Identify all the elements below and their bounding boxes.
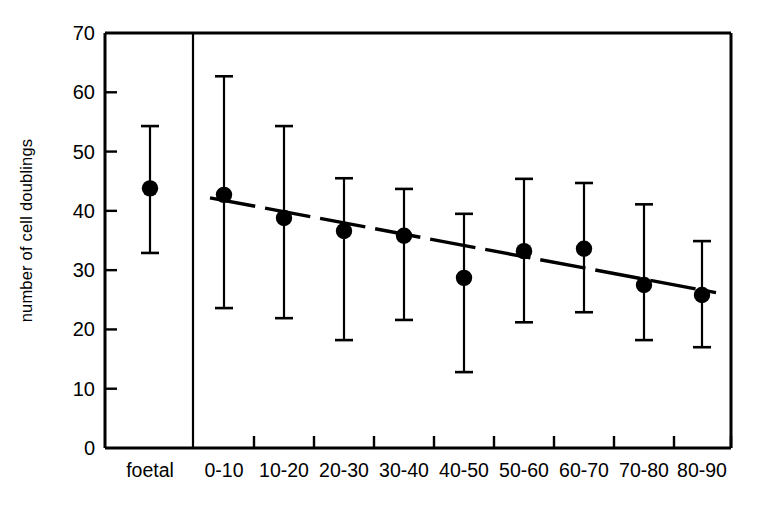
x-tick-label: 70-80 (619, 459, 669, 481)
data-point-marker (276, 210, 292, 226)
x-tick-label: 20-30 (319, 459, 369, 481)
x-tick-label: 30-40 (379, 459, 429, 481)
data-point-marker (456, 270, 472, 286)
y-tick-label: 40 (73, 200, 95, 222)
y-tick-label: 50 (73, 141, 95, 163)
data-point-marker (216, 187, 232, 203)
data-point-marker (576, 241, 592, 257)
x-tick-label: foetal (126, 459, 174, 481)
x-tick-label: 60-70 (559, 459, 609, 481)
y-tick-label: 20 (73, 318, 95, 340)
data-point-marker (142, 180, 158, 196)
y-axis-ticks: 010203040506070 (73, 22, 117, 459)
x-tick-label: 10-20 (259, 459, 309, 481)
y-axis-label-text: number of cell doublings (18, 138, 37, 322)
data-point-group (575, 183, 593, 312)
data-point-marker (636, 277, 652, 293)
data-point-marker (396, 228, 412, 244)
data-point-group (455, 214, 473, 372)
x-axis-tick-labels: foetal0-1010-2020-3030-4040-5050-6060-70… (126, 459, 727, 481)
data-point-group (635, 204, 653, 340)
y-tick-label: 30 (73, 259, 95, 281)
y-axis-label: number of cell doublings (0, 0, 54, 460)
data-series (141, 76, 711, 372)
x-tick-label: 80-90 (677, 459, 727, 481)
y-tick-label: 70 (73, 22, 95, 44)
data-point-group (335, 178, 353, 340)
chart-canvas: 010203040506070 foetal0-1010-2020-3030-4… (0, 0, 760, 513)
y-tick-label: 60 (73, 81, 95, 103)
data-point-group (693, 241, 711, 347)
data-point-group (515, 179, 533, 322)
data-point-marker (694, 287, 710, 303)
data-point-marker (336, 223, 352, 239)
y-tick-label: 0 (84, 437, 95, 459)
plot-frame (105, 33, 731, 448)
x-axis-ticks (254, 436, 731, 448)
chart-figure: number of cell doublings 010203040506070… (0, 0, 760, 513)
data-point-group (395, 189, 413, 320)
data-point-marker (516, 243, 532, 259)
data-point-group (141, 126, 159, 253)
data-point-group (275, 126, 293, 318)
x-tick-label: 50-60 (499, 459, 549, 481)
data-point-group (215, 76, 233, 308)
y-tick-label: 10 (73, 378, 95, 400)
x-tick-label: 40-50 (439, 459, 489, 481)
x-tick-label: 0-10 (204, 459, 243, 481)
